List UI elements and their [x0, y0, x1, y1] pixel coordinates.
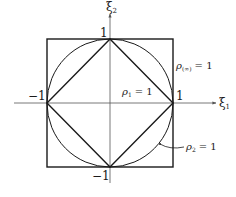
y-axis-label: ξ2: [106, 0, 117, 15]
tick-top: 1: [100, 26, 108, 40]
tick-bottom: −1: [92, 169, 110, 183]
norm-unit-balls-diagram: ξ1 ξ2 1 1 −1 −1 ρ(∞)= 1 ρ1= 1 ρ2= 1: [0, 0, 236, 197]
tick-left: −1: [28, 89, 46, 103]
label-rho-1: ρ1= 1: [121, 86, 153, 98]
x-axis-label: ξ1: [219, 96, 230, 111]
rho2-leader-line: [160, 144, 184, 148]
label-rho-infinity: ρ(∞)= 1: [175, 60, 213, 72]
tick-right: 1: [176, 89, 184, 103]
label-rho-2: ρ2= 1: [185, 141, 217, 153]
